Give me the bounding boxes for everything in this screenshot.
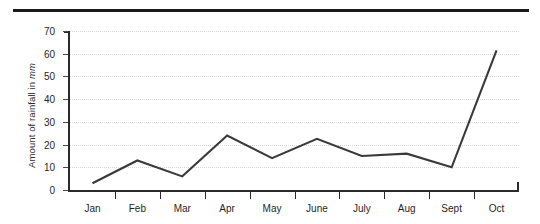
y-axis-tick-label: 40: [44, 94, 55, 105]
top-divider-rule: [13, 9, 529, 12]
y-axis-tick-label: 20: [44, 139, 55, 150]
x-axis-tick: [160, 192, 161, 199]
plot-area: 010203040506070 JanFebMarAprMayJuneJulyA…: [68, 31, 518, 191]
chart-page: Amount of rainfall in mm 010203040506070…: [0, 0, 540, 224]
x-axis-tick: [474, 192, 475, 199]
x-axis-label-oct: Oct: [489, 203, 505, 214]
y-axis-tick-label: 0: [49, 185, 55, 196]
x-axis-tick: [295, 192, 296, 199]
x-axis-tick: [384, 192, 385, 199]
x-axis-label-july: July: [353, 203, 371, 214]
x-axis-label-feb: Feb: [129, 203, 146, 214]
y-axis-tick-label: 50: [44, 71, 55, 82]
x-axis-tick: [250, 192, 251, 199]
y-axis-title-text: Amount of rainfall in: [26, 79, 37, 168]
y-axis-tick-label: 60: [44, 48, 55, 59]
x-axis-label-apr: Apr: [219, 203, 235, 214]
data-series-line: [68, 31, 519, 192]
x-axis-tick: [429, 192, 430, 199]
y-axis-tick-label: 10: [44, 162, 55, 173]
y-axis-unit-text: mm: [26, 63, 37, 79]
x-axis-label-aug: Aug: [398, 203, 416, 214]
x-axis-tick: [339, 192, 340, 199]
y-axis-title: Amount of rainfall in mm: [26, 41, 37, 191]
x-axis-tick: [115, 192, 116, 199]
x-axis-label-sept: Sept: [441, 203, 462, 214]
x-axis-tick: [205, 192, 206, 199]
y-axis-tick-label: 70: [44, 26, 55, 37]
y-axis-tick-label: 30: [44, 116, 55, 127]
x-axis-label-may: May: [263, 203, 282, 214]
x-axis-label-jan: Jan: [84, 203, 100, 214]
rainfall-line-path: [92, 50, 496, 183]
x-axis-label-june: June: [306, 203, 328, 214]
x-axis-label-mar: Mar: [174, 203, 191, 214]
